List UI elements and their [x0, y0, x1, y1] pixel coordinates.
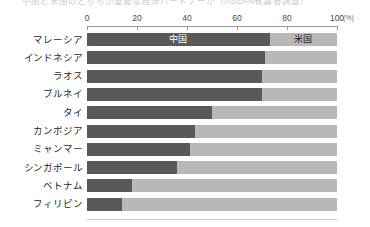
- bar-segment-china: [87, 70, 262, 83]
- chart-row: マレーシア中国米国: [0, 33, 370, 46]
- x-tick-mark: [137, 26, 138, 30]
- chart-container: 中国と米国のどちらが重要な経済パートナーか（ASEAN有識者調査） 020406…: [0, 0, 370, 227]
- bar-segment-china: [87, 179, 132, 192]
- chart-row: シンガポール: [0, 161, 370, 174]
- bar-segment-china: [87, 125, 195, 138]
- bar-segment-china: [87, 161, 177, 174]
- category-label: ラオス: [0, 69, 83, 82]
- bar-segment-china: [87, 143, 190, 156]
- x-tick-label: 60: [232, 13, 241, 23]
- bar-segment-us: [87, 88, 337, 101]
- chart-row: フィリピン: [0, 198, 370, 211]
- x-axis: 020406080100 (%): [0, 13, 370, 33]
- bar-segment-us: [87, 70, 337, 83]
- x-tick-mark: [237, 26, 238, 30]
- category-label: ベトナム: [0, 179, 83, 192]
- bar-segment-china: [87, 88, 262, 101]
- chart-title: 中国と米国のどちらが重要な経済パートナーか（ASEAN有識者調査）: [22, 0, 309, 6]
- category-label: ミャンマー: [0, 142, 83, 155]
- legend-label-china: 中国: [169, 33, 187, 46]
- category-label: インドネシア: [0, 51, 83, 64]
- chart-row: インドネシア: [0, 51, 370, 64]
- x-tick-label: 20: [132, 13, 141, 23]
- x-tick-mark: [187, 26, 188, 30]
- category-label: カンボジア: [0, 124, 83, 137]
- bar-segment-china: [87, 198, 122, 211]
- x-axis-line: [87, 26, 337, 27]
- x-tick-label: 40: [182, 13, 191, 23]
- x-tick-mark: [287, 26, 288, 30]
- chart-row: カンボジア: [0, 125, 370, 138]
- category-label: マレーシア: [0, 33, 83, 46]
- bar-segment-us: [87, 51, 337, 64]
- category-label: ブルネイ: [0, 87, 83, 100]
- chart-row: ベトナム: [0, 179, 370, 192]
- bar-segment-us: [87, 198, 337, 211]
- bar-segment-us: [87, 161, 337, 174]
- bar-segment-china: [87, 106, 212, 119]
- bar-segment-us: 中国米国: [87, 33, 337, 46]
- x-tick-label: 80: [282, 13, 291, 23]
- x-tick-mark: [87, 26, 88, 30]
- chart-row: ブルネイ: [0, 88, 370, 101]
- bar-segment-us: [87, 106, 337, 119]
- category-label: シンガポール: [0, 161, 83, 174]
- x-tick-label: 0: [85, 13, 90, 23]
- bar-segment-china: [87, 51, 265, 64]
- x-tick-label: 100: [330, 13, 344, 23]
- bar-segment-us: [87, 143, 337, 156]
- chart-title-strip: 中国と米国のどちらが重要な経済パートナーか（ASEAN有識者調査）: [0, 0, 370, 7]
- category-label: タイ: [0, 106, 83, 119]
- legend-label-us: 米国: [294, 33, 312, 46]
- category-label: フィリピン: [0, 197, 83, 210]
- bar-segment-us: [87, 125, 337, 138]
- plot-area: マレーシア中国米国インドネシアラオスブルネイタイカンボジアミャンマーシンガポール…: [0, 33, 370, 219]
- chart-row: ラオス: [0, 70, 370, 83]
- chart-row: タイ: [0, 106, 370, 119]
- bar-segment-us: [87, 179, 337, 192]
- x-tick-mark: [337, 26, 338, 30]
- plot-bottom-rule: [87, 219, 337, 220]
- chart-row: ミャンマー: [0, 143, 370, 156]
- x-axis-unit-label: (%): [343, 14, 354, 21]
